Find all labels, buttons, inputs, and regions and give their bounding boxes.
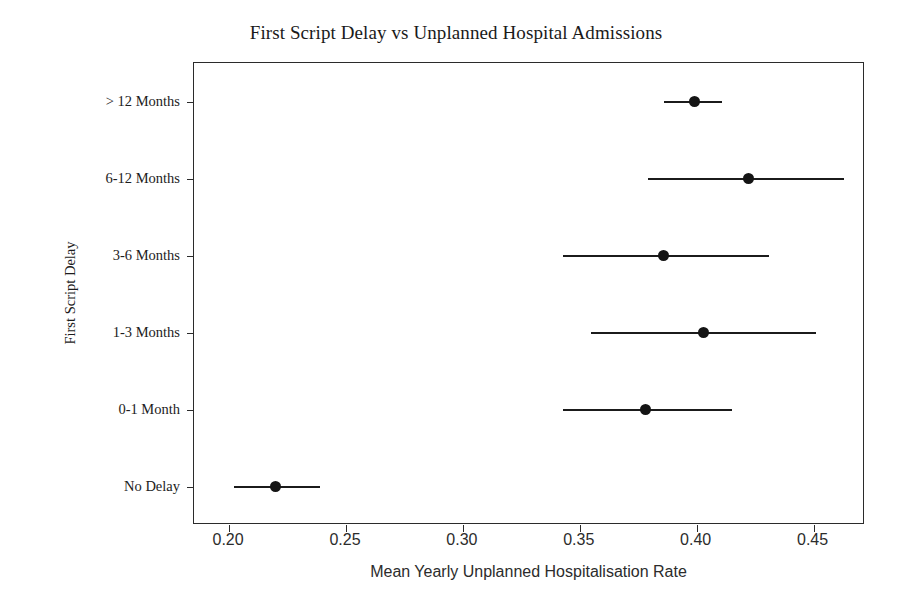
x-axis-tick-label: 0.25 [329, 531, 360, 549]
x-axis-title: Mean Yearly Unplanned Hospitalisation Ra… [193, 563, 864, 581]
y-axis-tick [187, 410, 194, 411]
page-title: First Script Delay vs Unplanned Hospital… [0, 22, 912, 44]
x-axis-tick-label: 0.45 [797, 531, 828, 549]
x-axis-tick-label: 0.30 [446, 531, 477, 549]
data-point-row [194, 247, 863, 265]
data-point-row [194, 324, 863, 342]
y-axis-tick [187, 487, 194, 488]
y-axis-tick-label: 0-1 Month [118, 400, 180, 417]
data-point-marker [689, 96, 700, 107]
y-axis-tick [187, 333, 194, 334]
y-axis-tick [187, 256, 194, 257]
y-axis-tick-label: No Delay [124, 477, 180, 494]
x-axis-tick-labels: 0.200.250.300.350.400.45 [193, 531, 864, 555]
data-point-marker [743, 173, 754, 184]
data-point-marker [698, 327, 709, 338]
y-axis-tick [187, 179, 194, 180]
data-point-row [194, 170, 863, 188]
x-axis-tick-label: 0.40 [680, 531, 711, 549]
data-point-marker [640, 404, 651, 415]
data-point-row [194, 478, 863, 496]
y-axis-tick-label: > 12 Months [106, 92, 180, 109]
plot-area [194, 63, 863, 523]
data-point-marker [270, 481, 281, 492]
x-axis-tick-label: 0.20 [212, 531, 243, 549]
y-axis-tick-labels: > 12 Months6-12 Months3-6 Months1-3 Mont… [0, 62, 184, 524]
chart-page: First Script Delay vs Unplanned Hospital… [0, 0, 912, 613]
y-axis-tick-label: 3-6 Months [113, 246, 180, 263]
data-point-row [194, 93, 863, 111]
y-axis-tick [187, 102, 194, 103]
x-axis-tick-label: 0.35 [563, 531, 594, 549]
y-axis-tick-label: 1-3 Months [113, 323, 180, 340]
data-point-row [194, 401, 863, 419]
y-axis-tick-label: 6-12 Months [105, 169, 180, 186]
plot-frame [193, 62, 864, 524]
data-point-marker [658, 250, 669, 261]
